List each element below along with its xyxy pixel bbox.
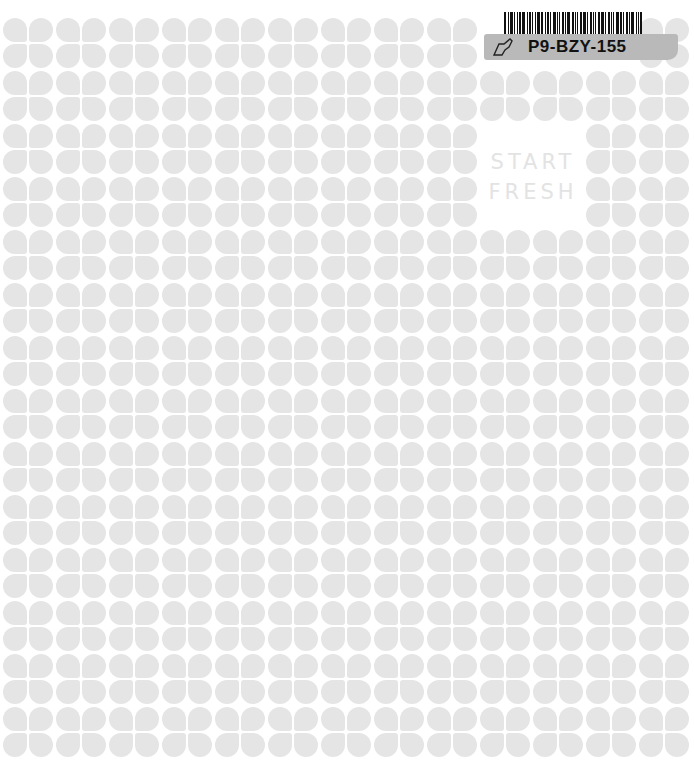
clover-motif (162, 601, 212, 651)
clover-motif (215, 548, 265, 598)
clover-motif (480, 442, 530, 492)
clover-motif (480, 601, 530, 651)
clover-motif (586, 601, 636, 651)
clover-motif (162, 495, 212, 545)
clover-motif (109, 336, 159, 386)
clover-motif (480, 548, 530, 598)
barcode-sticker: P9-BZY-155 (484, 12, 694, 62)
clover-motif (533, 230, 583, 280)
sticker-label: P9-BZY-155 (484, 34, 678, 60)
clover-motif (268, 71, 318, 121)
clover-motif (427, 495, 477, 545)
clover-motif (480, 336, 530, 386)
clover-motif (533, 389, 583, 439)
clover-motif (3, 707, 53, 757)
clover-motif (109, 654, 159, 704)
clover-motif (321, 389, 371, 439)
clover-motif (639, 389, 689, 439)
clover-motif (374, 601, 424, 651)
clover-motif (56, 177, 106, 227)
clover-motif (321, 442, 371, 492)
clover-motif (586, 495, 636, 545)
clover-motif (427, 601, 477, 651)
clover-motif (3, 71, 53, 121)
barcode (504, 12, 680, 34)
clover-motif (374, 230, 424, 280)
clover-motif (215, 654, 265, 704)
clover-motif (215, 124, 265, 174)
clover-motif (109, 230, 159, 280)
clover-motif (268, 707, 318, 757)
clover-motif (374, 654, 424, 704)
clover-motif (56, 18, 106, 68)
clover-motif (109, 283, 159, 333)
clover-motif (268, 283, 318, 333)
clover-motif (586, 336, 636, 386)
clover-pattern (0, 0, 694, 780)
clover-motif (215, 389, 265, 439)
clover-motif (3, 495, 53, 545)
clover-motif (427, 707, 477, 757)
clover-motif (427, 389, 477, 439)
clover-motif (109, 389, 159, 439)
clover-motif (162, 230, 212, 280)
clover-motif (427, 71, 477, 121)
clover-motif (427, 177, 477, 227)
clover-motif (215, 283, 265, 333)
clover-motif (215, 442, 265, 492)
clover-motif (268, 177, 318, 227)
clover-motif (3, 654, 53, 704)
clover-motif (374, 71, 424, 121)
clover-motif (321, 654, 371, 704)
clover-motif (3, 389, 53, 439)
clover-motif (321, 495, 371, 545)
clover-motif (639, 336, 689, 386)
clover-motif (162, 177, 212, 227)
clover-motif (639, 177, 689, 227)
clover-motif (427, 654, 477, 704)
clover-motif (374, 548, 424, 598)
clover-motif (586, 707, 636, 757)
clover-motif (427, 548, 477, 598)
clover-motif (480, 654, 530, 704)
clover-motif (56, 230, 106, 280)
clover-motif (3, 230, 53, 280)
clover-motif (427, 336, 477, 386)
clover-motif (586, 124, 636, 174)
clover-motif (215, 336, 265, 386)
clover-motif (374, 707, 424, 757)
clover-motif (374, 442, 424, 492)
clover-motif (533, 548, 583, 598)
clover-motif (162, 654, 212, 704)
clover-motif (480, 230, 530, 280)
clover-motif (374, 283, 424, 333)
clover-motif (3, 601, 53, 651)
clover-motif (480, 283, 530, 333)
clover-motif (586, 177, 636, 227)
clover-motif (427, 124, 477, 174)
clover-motif (321, 283, 371, 333)
clover-motif (639, 442, 689, 492)
clover-motif (321, 177, 371, 227)
clover-motif (215, 707, 265, 757)
clover-motif (56, 124, 106, 174)
clover-motif (56, 707, 106, 757)
clover-motif (639, 601, 689, 651)
clover-motif (56, 71, 106, 121)
clover-motif (586, 442, 636, 492)
clover-motif (639, 707, 689, 757)
clover-motif (162, 548, 212, 598)
clover-motif (109, 707, 159, 757)
clover-motif (268, 230, 318, 280)
clover-motif (56, 336, 106, 386)
clover-motif (639, 654, 689, 704)
clover-motif (109, 124, 159, 174)
clover-motif (586, 71, 636, 121)
clover-motif (268, 336, 318, 386)
title-line-2: FRESH (488, 177, 577, 207)
clover-motif (374, 495, 424, 545)
clover-motif (321, 124, 371, 174)
clover-motif (533, 654, 583, 704)
clover-motif (639, 283, 689, 333)
clover-motif (321, 336, 371, 386)
